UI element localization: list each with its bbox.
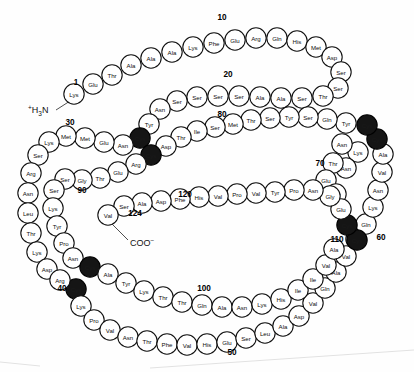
- residue-label: Ala: [168, 49, 177, 56]
- residue-label: Thr: [107, 72, 116, 79]
- residue-label: Lys: [188, 44, 197, 51]
- residue-label: Ile: [310, 276, 317, 283]
- residue-52-leu: Leu: [255, 323, 275, 343]
- residue-label: Lys: [368, 204, 377, 211]
- residue-number-80: 80: [217, 110, 227, 119]
- residue-label: Glu: [88, 81, 97, 88]
- residue-number-120: 120: [178, 190, 192, 199]
- residue-85-arg: Arg: [126, 154, 146, 174]
- residue-label: Gly: [325, 193, 335, 200]
- residue-label: Val: [309, 300, 317, 307]
- residue-label: Gln: [272, 35, 281, 42]
- residue-19-ala: Ala: [271, 88, 291, 108]
- residue-76-tyr: Tyr: [279, 107, 299, 127]
- residue-label: Ser: [172, 98, 181, 105]
- residue-label: Thr: [95, 175, 104, 182]
- residue-label: Asp: [161, 143, 172, 150]
- residue-label: Thr: [328, 160, 337, 167]
- residue-label: Asn: [155, 106, 166, 113]
- residue-35-asn: Asn: [18, 183, 38, 203]
- residue-78-thr: Thr: [241, 110, 261, 130]
- residue-label: Tyr: [53, 223, 61, 230]
- residue-4-ala: Ala: [121, 55, 141, 75]
- residue-17-thr: Thr: [313, 86, 333, 106]
- residue-102-ala: Ala: [212, 297, 232, 317]
- residue-label: Tyr: [285, 114, 293, 121]
- residue-label: Ser: [33, 152, 42, 159]
- residue-label: Glu: [222, 339, 231, 346]
- residue-label: Thr: [246, 117, 255, 124]
- residue-73-tyr: Tyr: [336, 113, 356, 133]
- residue-99-thr: Thr: [153, 287, 173, 307]
- residue-number-40: 40: [57, 284, 67, 293]
- residue-45-asn: Asn: [118, 327, 138, 347]
- residue-label: His: [293, 38, 302, 45]
- residue-10-arg: Arg: [246, 28, 266, 48]
- residue-label: Tyr: [342, 120, 350, 127]
- residue-label: Asp: [42, 266, 53, 273]
- residue-48-val: Val: [177, 335, 197, 355]
- residue-21-ser: Ser: [229, 86, 249, 106]
- residue-label: Ala: [138, 200, 147, 207]
- residue-label: Lys: [32, 249, 41, 256]
- residue-label: Asn: [337, 141, 348, 148]
- residue-label: Leu: [260, 330, 270, 337]
- sequence-diagram-canvas: LysGluThrAlaAlaAlaLysPheGluArgGlnHisMetA…: [0, 0, 414, 372]
- residue-label: Glu: [99, 139, 108, 146]
- residue-75-ser: Ser: [298, 107, 318, 127]
- residue-95-cys: Cys: [80, 257, 100, 277]
- residue-label: Cys: [372, 136, 383, 143]
- residue-9-glu: Glu: [225, 30, 245, 50]
- residue-label: Cys: [362, 122, 373, 129]
- residue-label: Arg: [251, 35, 260, 42]
- residue-label: Ser: [333, 85, 342, 92]
- residue-label: Pro: [289, 187, 299, 194]
- residue-number-1: 1: [74, 78, 79, 87]
- residue-label: Ala: [379, 151, 388, 158]
- residue-122-asp: Asp: [151, 191, 171, 211]
- residue-label: Ser: [297, 95, 306, 102]
- residue-label: Ala: [277, 95, 286, 102]
- residue-119-val: Val: [208, 186, 228, 206]
- residue-label: Gln: [322, 116, 331, 123]
- residue-77-ser: Ser: [260, 108, 280, 128]
- residue-22-ser: Ser: [208, 86, 228, 106]
- residue-label: Ala: [218, 304, 227, 311]
- residue-label: Pro: [232, 191, 242, 198]
- residue-label: Ser: [49, 187, 58, 194]
- residue-23-ser: Ser: [187, 87, 207, 107]
- residue-30-met: Met: [75, 128, 95, 148]
- residue-label: His: [195, 194, 204, 201]
- residue-number-70: 70: [315, 159, 325, 168]
- residue-label: Thr: [177, 299, 186, 306]
- residue-74-gln: Gln: [317, 109, 337, 129]
- residue-label: Met: [61, 133, 71, 140]
- residue-label: Gly: [77, 177, 87, 184]
- residue-label: Val: [214, 193, 222, 200]
- residue-20-ala: Ala: [250, 87, 270, 107]
- residue-number-50: 50: [227, 348, 237, 357]
- residue-label: Asn: [23, 190, 34, 197]
- residue-label: Val: [183, 342, 191, 349]
- residue-label: Thr: [318, 93, 327, 100]
- residue-label: Cys: [135, 135, 146, 142]
- residue-86-glu: Glu: [108, 162, 128, 182]
- residue-125-val: Val: [98, 205, 118, 225]
- residue-label: Ser: [60, 176, 69, 183]
- residue-label: Asn: [118, 142, 129, 149]
- residue-label: Cys: [85, 264, 96, 271]
- residue-label: Asn: [308, 187, 319, 194]
- residue-62-asn: Asn: [368, 180, 388, 200]
- residue-number-100: 100: [197, 284, 211, 293]
- residue-98-lys: Lys: [134, 281, 154, 301]
- residue-118-pro: Pro: [227, 184, 247, 204]
- n-terminus-label: +H3N: [28, 104, 48, 117]
- residue-label: Cys: [146, 152, 157, 159]
- residue-34-arg: Arg: [21, 163, 41, 183]
- residue-label: Leu: [23, 210, 33, 217]
- residue-label: Lys: [76, 303, 85, 310]
- residue-103-asn: Asn: [232, 297, 252, 317]
- c-terminus-label: COO−: [130, 236, 155, 248]
- residue-number-90: 90: [77, 186, 87, 195]
- residue-label: Asp: [156, 198, 167, 205]
